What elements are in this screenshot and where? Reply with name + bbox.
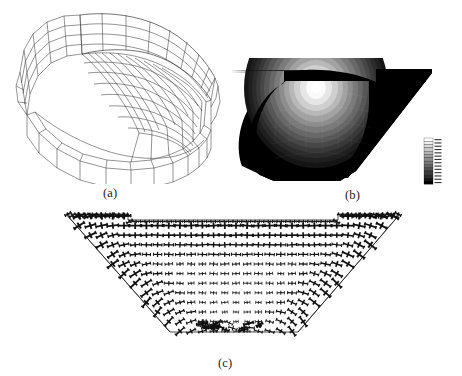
stress-cross-glyph <box>164 281 173 286</box>
stress-cross-glyph <box>196 232 209 238</box>
stress-cross-glyph <box>277 281 284 285</box>
stress-cross-glyph <box>118 222 129 229</box>
stress-cross-glyph <box>266 272 272 276</box>
stress-cross-glyph <box>277 262 285 266</box>
stress-cross-glyph <box>254 262 263 266</box>
stress-cross-arm <box>191 310 192 313</box>
stress-cross-glyph <box>129 222 142 229</box>
stress-cross-glyph <box>264 242 275 248</box>
stress-cross-glyph <box>288 281 295 285</box>
stress-cross-glyph <box>221 300 228 304</box>
stress-cross-glyph <box>287 233 298 238</box>
stress-cross-glyph <box>331 269 343 278</box>
stress-cross-tick <box>107 245 108 248</box>
stress-cross-arm <box>280 329 282 333</box>
stress-cross-arm <box>336 252 337 257</box>
stress-cross-glyph <box>221 262 229 266</box>
stress-cross-glyph <box>321 252 331 256</box>
stress-cross-tick <box>285 322 286 325</box>
stress-cross-glyph <box>164 299 174 306</box>
stress-cross-glyph <box>153 252 161 257</box>
stress-cross-tick <box>152 293 153 296</box>
stress-cross-glyph <box>267 291 273 295</box>
stress-cross-glyph <box>186 318 196 324</box>
stress-cross-arm <box>358 222 360 229</box>
stress-cross-arm <box>347 262 350 267</box>
stress-cross-arm <box>180 301 181 305</box>
stress-cross-arm <box>369 223 371 229</box>
stress-cross-tick <box>150 262 151 265</box>
stress-cross-glyph <box>130 261 140 267</box>
stress-cross-arm <box>123 252 125 257</box>
stress-cross-glyph <box>275 232 286 238</box>
stress-cross-glyph <box>175 326 185 336</box>
stress-cross-tick <box>262 331 263 334</box>
stress-cross-glyph <box>255 310 262 314</box>
stress-cross-glyph <box>199 301 205 305</box>
stress-cross-glyph <box>288 272 295 276</box>
stress-cross-glyph <box>185 232 197 238</box>
stress-cross-glyph <box>309 242 319 247</box>
stress-cross-arm <box>112 233 113 238</box>
stress-cross-glyph <box>298 281 308 286</box>
stress-cross-tick <box>375 226 376 229</box>
stress-cross-glyph <box>321 242 331 247</box>
stress-cross-glyph <box>332 233 342 238</box>
stress-cross-tick <box>364 222 365 225</box>
stress-cross-glyph <box>164 316 174 327</box>
stress-cross-tick <box>195 318 196 321</box>
contour-plot-svg <box>228 58 462 188</box>
stress-cross-tick <box>119 244 120 247</box>
stress-cross-arm <box>146 271 147 276</box>
stress-cross-glyph <box>266 281 273 285</box>
stress-cross-glyph <box>164 252 173 257</box>
stress-cross-glyph <box>108 232 118 238</box>
stress-cross-tick <box>265 328 266 331</box>
stress-cross-glyph <box>242 242 252 247</box>
stress-cross-glyph <box>165 272 172 276</box>
stress-cross-arm <box>325 252 326 256</box>
stress-cross-glyph <box>221 272 229 276</box>
stress-cross-glyph <box>219 242 230 248</box>
stress-cross-glyph <box>164 242 173 247</box>
stress-cross-tick <box>95 223 96 226</box>
stress-cross-tick <box>164 293 165 296</box>
stress-cross-glyph <box>310 271 319 277</box>
stress-cross-arm <box>157 291 159 295</box>
stress-cross-tick <box>85 226 86 229</box>
stress-cross-arm <box>325 261 326 266</box>
stress-cross-glyph <box>309 279 320 287</box>
stress-cross-glyph <box>255 281 262 285</box>
stress-cross-glyph <box>266 300 273 304</box>
stress-cross-glyph <box>320 278 332 288</box>
stress-cross-arm <box>336 242 337 247</box>
stress-cross-glyph <box>309 232 319 238</box>
stress-cross-glyph <box>175 300 184 305</box>
stress-cross-tick <box>173 290 174 293</box>
stress-cross-arm <box>269 329 270 333</box>
stress-cross-glyph <box>321 232 331 238</box>
outer-wall-left <box>20 15 82 115</box>
stress-cross-arm <box>157 281 159 286</box>
stress-cross-tick <box>308 293 309 296</box>
stress-cross-glyph <box>188 281 194 285</box>
stress-cross-glyph <box>233 310 238 313</box>
stress-cross-glyph <box>186 242 197 247</box>
stress-cross-glyph <box>119 251 129 258</box>
stress-cross-glyph <box>186 328 196 335</box>
stress-cross-glyph <box>142 252 150 256</box>
stress-cross-glyph <box>233 320 238 324</box>
stress-cross-glyph <box>255 272 263 276</box>
stress-cross-tick <box>108 235 109 238</box>
stress-cross-tick <box>228 325 229 328</box>
stress-cross-arm <box>314 262 315 266</box>
stress-cross-glyph <box>343 242 353 248</box>
stress-cross-glyph <box>298 242 309 247</box>
stress-cross-glyph <box>266 319 274 324</box>
stress-cross-glyph <box>199 262 206 266</box>
stress-cross-tick <box>253 321 254 324</box>
stress-cross-glyph <box>287 299 297 306</box>
stress-cross-glyph <box>354 232 365 238</box>
stress-cross-tick <box>321 262 322 265</box>
stress-cross-glyph <box>288 252 297 256</box>
